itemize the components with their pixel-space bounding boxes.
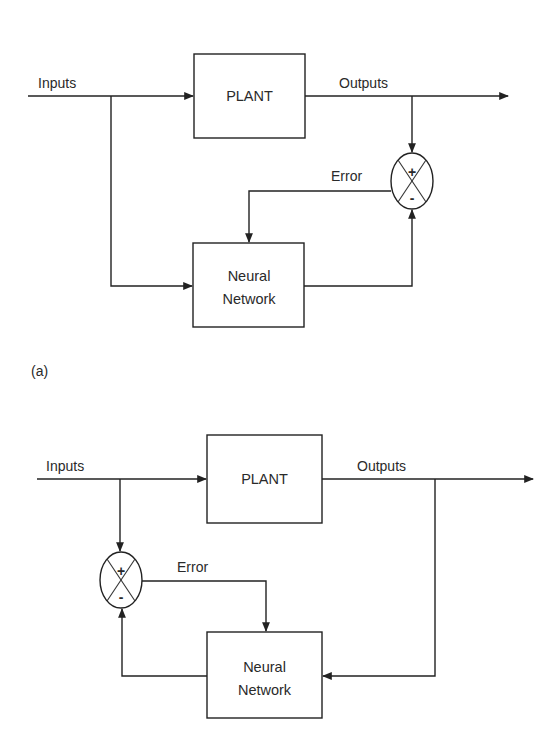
inputs-label-a: Inputs — [38, 75, 76, 91]
sum-minus-sign-b: - — [119, 589, 124, 605]
nn-to-sum-arrow-b — [122, 609, 207, 676]
summing-junction-a: + - — [391, 153, 433, 209]
nn-label-line2-b: Network — [238, 682, 292, 698]
nn-label-line1-b: Neural — [243, 659, 286, 675]
nn-to-sum-arrow-a — [304, 210, 412, 286]
error-label-a: Error — [331, 168, 362, 184]
diagram-canvas: Inputs PLANT Outputs + - Error Neural Ne… — [0, 0, 557, 755]
outputs-label-b: Outputs — [357, 458, 406, 474]
summing-junction-b: + - — [100, 552, 142, 608]
diagram-a: Inputs PLANT Outputs + - Error Neural Ne… — [28, 54, 508, 379]
neural-network-block-a — [193, 243, 304, 327]
caption-a: (a) — [31, 363, 48, 379]
sum-plus-sign-b: + — [117, 563, 125, 579]
inputs-to-nn-arrow-a — [111, 96, 192, 286]
error-label-b: Error — [177, 559, 208, 575]
error-arrow-a — [249, 191, 391, 242]
diagram-b: Inputs PLANT Outputs + - Error Neural Ne… — [37, 435, 533, 718]
outputs-label-a: Outputs — [339, 75, 388, 91]
inputs-label-b: Inputs — [46, 458, 84, 474]
nn-label-line2-a: Network — [222, 291, 276, 307]
neural-network-block-b — [207, 632, 322, 718]
sum-minus-sign-a: - — [410, 190, 415, 206]
sum-plus-sign-a: + — [408, 164, 416, 180]
nn-label-line1-a: Neural — [228, 268, 271, 284]
plant-label-a: PLANT — [226, 88, 273, 104]
outputs-to-nn-arrow-b — [323, 479, 435, 676]
plant-label-b: PLANT — [241, 471, 288, 487]
error-arrow-b — [142, 581, 266, 631]
